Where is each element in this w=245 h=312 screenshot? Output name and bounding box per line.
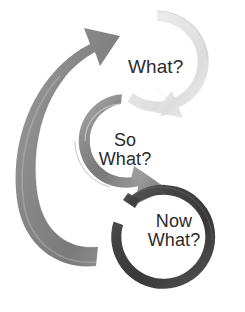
stage-label-what: What? xyxy=(128,57,212,78)
stage-label-so-what: SoWhat? xyxy=(82,131,168,170)
stage-label-now-what-line1: Now xyxy=(156,211,192,231)
reflective-cycle-diagram: What? SoWhat? NowWhat? xyxy=(0,0,245,312)
stage-label-so-what-line1: So xyxy=(114,130,136,150)
stage-label-now-what-line2: What? xyxy=(148,230,201,250)
stage-label-now-what: NowWhat? xyxy=(131,212,217,251)
stage-label-so-what-line2: What? xyxy=(99,149,152,169)
